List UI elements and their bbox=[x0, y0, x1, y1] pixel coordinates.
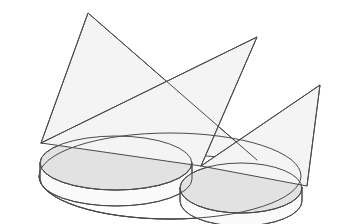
geometry-diagram-canvas bbox=[0, 0, 339, 224]
figure-root bbox=[0, 0, 339, 224]
